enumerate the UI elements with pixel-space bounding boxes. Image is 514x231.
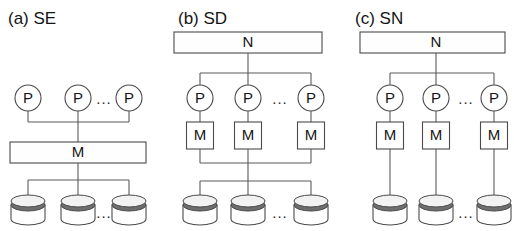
panel-sd-disks — [183, 195, 328, 225]
memory-label: M — [305, 126, 318, 143]
processor-node[interactable]: P — [235, 85, 261, 111]
processor-node[interactable]: P — [298, 85, 324, 111]
processor-node[interactable]: P — [481, 85, 507, 111]
processor-node[interactable]: P — [15, 85, 41, 111]
panel-se: (a) SE P P — [8, 9, 146, 225]
panel-sd-title: (b) SD — [178, 9, 227, 28]
panel-sn-disks — [373, 195, 511, 225]
memory-label: M — [194, 126, 207, 143]
memory-label: M — [488, 126, 501, 143]
panel-sd: (b) SD N P — [174, 9, 328, 225]
processor-label: P — [23, 89, 33, 106]
architecture-diagram: (a) SE P P — [0, 0, 514, 231]
panel-se-processors: P P P — [15, 85, 142, 111]
panel-sn-title: (c) SN — [355, 9, 403, 28]
panel-se-processor-links — [28, 111, 129, 142]
processor-node[interactable]: P — [187, 85, 213, 111]
processor-ellipsis: ... — [272, 90, 288, 107]
disk-ellipsis: ... — [96, 204, 112, 221]
processor-node[interactable]: P — [423, 85, 449, 111]
panel-sn: (c) SN N P — [355, 9, 511, 225]
network-bar-label: N — [243, 33, 254, 50]
processor-label: P — [306, 89, 316, 106]
panel-sn-memories: M M M — [377, 122, 508, 149]
memory-bar-label: M — [72, 143, 85, 160]
panel-se-title: (a) SE — [8, 9, 56, 28]
memory-node[interactable]: M — [481, 122, 508, 149]
memory-node[interactable]: M — [423, 122, 450, 149]
processor-ellipsis: ... — [458, 90, 474, 107]
panel-se-disks — [11, 195, 146, 225]
processor-label: P — [195, 89, 205, 106]
panel-sn-processors: P P P — [377, 85, 507, 111]
panel-sd-processors: P P P — [187, 85, 324, 111]
processor-label: P — [431, 89, 441, 106]
figure-root: (a) SE P P — [0, 0, 514, 231]
processor-label: P — [489, 89, 499, 106]
panel-sd-disk-links — [200, 149, 311, 201]
memory-node[interactable]: M — [187, 122, 214, 149]
memory-node[interactable]: M — [377, 122, 404, 149]
disk-node[interactable] — [419, 195, 453, 225]
disk-node[interactable] — [477, 195, 511, 225]
memory-label: M — [384, 126, 397, 143]
panel-sn-disk-links — [390, 149, 494, 201]
processor-label: P — [73, 89, 83, 106]
disk-node[interactable] — [183, 195, 217, 225]
disk-ellipsis: ... — [272, 204, 288, 221]
disk-ellipsis: ... — [458, 204, 474, 221]
memory-label: M — [430, 126, 443, 143]
panel-sn-network-links — [390, 53, 494, 85]
network-bar-label: N — [431, 33, 442, 50]
disk-node[interactable] — [231, 195, 265, 225]
processor-ellipsis: ... — [96, 90, 112, 107]
disk-node[interactable] — [294, 195, 328, 225]
panel-sd-network-bar[interactable]: N — [174, 32, 322, 53]
panel-sd-pm-links — [200, 111, 311, 122]
processor-label: P — [385, 89, 395, 106]
panel-sd-memories: M M M — [187, 122, 325, 149]
processor-label: P — [124, 89, 134, 106]
disk-node[interactable] — [373, 195, 407, 225]
panel-sn-network-bar[interactable]: N — [360, 32, 505, 53]
disk-node[interactable] — [11, 195, 45, 225]
panel-sn-pm-links — [390, 111, 494, 122]
panel-se-memory-bar[interactable]: M — [10, 142, 146, 163]
processor-node[interactable]: P — [65, 85, 91, 111]
processor-label: P — [243, 89, 253, 106]
processor-node[interactable]: P — [377, 85, 403, 111]
disk-node[interactable] — [61, 195, 95, 225]
panel-sd-network-links — [200, 53, 311, 85]
memory-node[interactable]: M — [235, 122, 262, 149]
processor-node[interactable]: P — [116, 85, 142, 111]
memory-label: M — [242, 126, 255, 143]
memory-node[interactable]: M — [298, 122, 325, 149]
disk-node[interactable] — [112, 195, 146, 225]
